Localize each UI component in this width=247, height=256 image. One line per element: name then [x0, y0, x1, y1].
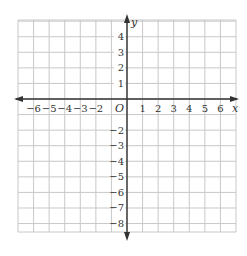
x-tick-label: 3 — [171, 103, 177, 114]
x-tick-label: 5 — [202, 103, 208, 114]
x-tick-label: 2 — [155, 103, 161, 114]
x-tick-label: 4 — [186, 103, 192, 114]
origin-label: O — [115, 102, 124, 115]
x-tick-label: 6 — [217, 103, 223, 114]
y-tick-label: −3 — [109, 140, 124, 151]
y-tick-label: −5 — [109, 171, 124, 182]
y-tick-label: −2 — [109, 125, 124, 136]
x-tick-label: −2 — [88, 103, 103, 114]
x-tick-label: −6 — [26, 103, 41, 114]
x-axis-label: x — [232, 102, 239, 115]
y-tick-label: 2 — [118, 62, 124, 73]
x-tick-label: −4 — [57, 103, 72, 114]
y-tick-label: 3 — [118, 47, 124, 58]
y-tick-label: −8 — [109, 218, 124, 229]
y-tick-label: 1 — [118, 78, 124, 89]
y-tick-label: −4 — [109, 156, 124, 167]
y-axis-label: y — [130, 16, 138, 29]
y-axis-down-arrow-icon — [124, 232, 130, 241]
x-tick-label: −3 — [73, 103, 88, 114]
x-tick-label: −5 — [42, 103, 57, 114]
x-tick-label: 1 — [139, 103, 145, 114]
y-tick-label: −7 — [109, 202, 124, 213]
coordinate-plane: −6−5−4−3−21234564321−2−3−4−5−6−7−8 x y O — [0, 0, 247, 256]
y-tick-label: −6 — [109, 187, 124, 198]
y-axis-up-arrow-icon — [124, 14, 130, 23]
y-tick-label: 4 — [118, 31, 124, 42]
